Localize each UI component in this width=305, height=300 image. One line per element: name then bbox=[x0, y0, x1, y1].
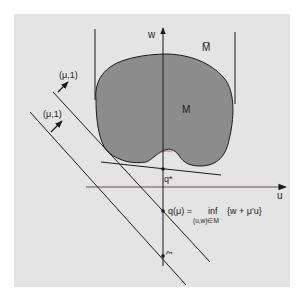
xi-point bbox=[161, 254, 165, 258]
q-mu-equation-rhs: {w + μ′u} bbox=[227, 206, 262, 216]
q-mu-equation-inf: inf bbox=[208, 206, 218, 216]
normal-upper-label: (μ,1) bbox=[59, 70, 78, 80]
q-mu-equation-subscript: (u,w)∈M bbox=[193, 217, 219, 225]
closure-set-label: M̅ bbox=[202, 42, 210, 53]
normal-lower-label: (μ,1) bbox=[43, 109, 62, 119]
u-axis-label: u bbox=[277, 190, 283, 201]
q-star-label: q* bbox=[164, 174, 173, 184]
q-mu-equation-lhs: q(μ) = bbox=[168, 206, 192, 216]
q-mu-point bbox=[161, 209, 165, 213]
set-m-label: M bbox=[182, 104, 190, 115]
diagram-canvas: w u M̅ M q* (μ,1) (μ,1) q(μ) = inf (u,w)… bbox=[0, 0, 305, 300]
xi-label: ξ bbox=[165, 251, 174, 255]
q-star-point bbox=[161, 167, 165, 171]
w-axis-label: w bbox=[147, 29, 156, 40]
normal-vector-lower bbox=[51, 121, 62, 132]
normal-vector-upper bbox=[58, 82, 68, 92]
set-m-region bbox=[96, 54, 233, 166]
